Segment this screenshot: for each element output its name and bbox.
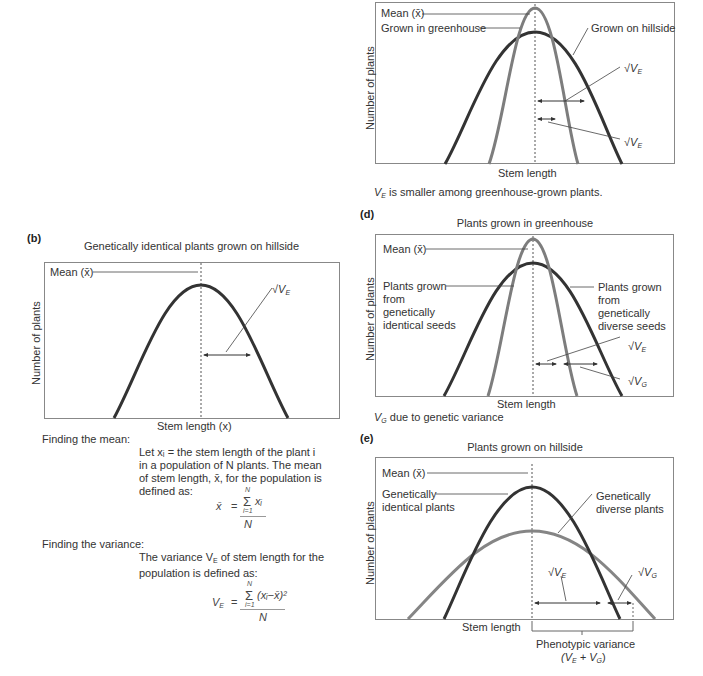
panel-e-mean-label: Mean (x̄)	[382, 467, 425, 480]
panel-e-curves	[0, 0, 703, 676]
panel-e-diverse-label: Genetically diverse plants	[596, 490, 676, 516]
phenotypic-variance-formula: (VE + VG)	[561, 651, 606, 667]
panel-e-sqrt-ve-label: √VE	[548, 566, 566, 582]
phenotypic-variance-label: Phenotypic variance	[536, 638, 635, 651]
panel-e-x-axis-label: Stem length	[462, 621, 521, 634]
panel-e-sqrt-vg-label: √VG	[638, 566, 657, 582]
panel-e-identical-label: Genetically identical plants	[382, 488, 462, 514]
